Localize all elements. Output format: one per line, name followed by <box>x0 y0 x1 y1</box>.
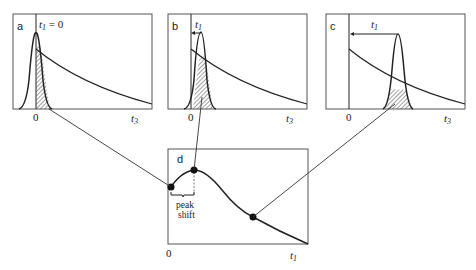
panel-a-x-axis-label: t3 <box>131 112 138 126</box>
panel-a: a t1 = 0 0 t3 <box>13 14 152 126</box>
panel-b-arrowhead-icon <box>191 31 195 35</box>
panel-c-origin-label: 0 <box>346 111 352 123</box>
panel-d-origin-label: 0 <box>166 247 172 259</box>
panel-d-frame <box>168 149 308 244</box>
panel-d-x-axis-label: t1 <box>290 249 297 263</box>
panel-b: b t1 0 t3 <box>168 14 307 126</box>
connector-c-to-d <box>253 104 395 217</box>
connector-a-to-d <box>49 109 171 187</box>
panel-b-origin-label: 0 <box>188 111 194 123</box>
panel-b-frame <box>168 14 307 109</box>
panel-d: d peak shift 0 t1 <box>166 149 308 263</box>
panel-c-arrowhead-icon <box>350 32 354 36</box>
panel-c: c t1 0 t3 <box>326 14 465 126</box>
panel-a-annotation: t1 = 0 <box>39 18 64 32</box>
panel-c-annotation: t1 <box>371 18 378 32</box>
panel-b-label: b <box>172 20 178 32</box>
panel-c-label: c <box>330 20 336 32</box>
panel-d-label: d <box>177 153 183 165</box>
panel-b-x-axis-label: t3 <box>286 112 293 126</box>
figure: a t1 = 0 0 t3 b t1 0 t3 c t1 0 t3 <box>0 0 476 270</box>
panel-d-bracket-text-line1: peak <box>176 200 194 210</box>
panel-a-origin-label: 0 <box>33 111 39 123</box>
panel-a-decay-curve <box>36 49 152 104</box>
panel-d-peak-shift-bracket <box>171 192 194 197</box>
panel-a-frame <box>13 14 152 109</box>
panel-b-annotation: t1 <box>195 18 202 32</box>
panel-d-bracket-text-line2: shift <box>178 210 195 220</box>
panel-c-x-axis-label: t3 <box>444 112 451 126</box>
panel-a-label: a <box>17 20 24 32</box>
